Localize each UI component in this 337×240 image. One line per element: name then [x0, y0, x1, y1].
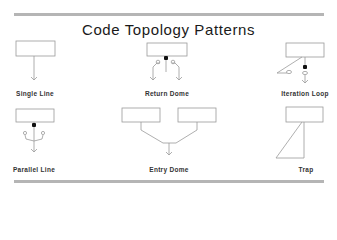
- parallel-branch-right: [34, 135, 43, 141]
- label-entry-dome: Entry Dome: [129, 166, 209, 173]
- return-dome-node: [164, 56, 168, 60]
- parallel-line-box: [16, 109, 54, 122]
- trap-box: [286, 107, 323, 122]
- label-iteration-loop: Iteration Loop: [265, 90, 337, 97]
- loop-node: [303, 71, 308, 74]
- return-dome-left-branch: [153, 63, 160, 80]
- label-parallel-line: Parallel Line: [0, 166, 74, 173]
- entry-dome-diagram: [122, 108, 216, 155]
- trap-diagram: [276, 107, 323, 158]
- parallel-node-left: [23, 131, 26, 134]
- iteration-loop-diagram: [277, 43, 324, 83]
- return-dome-right-branch: [172, 63, 179, 80]
- entry-dome-box-right: [178, 108, 216, 122]
- entry-dome-right-edge: [169, 122, 197, 143]
- trap-diagonal: [276, 122, 302, 158]
- parallel-branch-left: [25, 135, 34, 141]
- bottom-rule: [14, 180, 324, 183]
- return-dome-diagram: [147, 43, 187, 80]
- single-line-box: [16, 41, 55, 56]
- parallel-line-node: [32, 123, 36, 127]
- parallel-node-right: [41, 131, 44, 134]
- entry-dome-box-left: [122, 108, 160, 122]
- iteration-loop-node: [303, 65, 307, 69]
- single-line-diagram: [16, 41, 55, 80]
- parallel-line-diagram: [16, 109, 54, 152]
- label-single-line: Single Line: [0, 90, 75, 97]
- return-dome-box: [147, 43, 187, 56]
- loop-return-node: [287, 70, 292, 73]
- entry-dome-left-edge: [141, 122, 169, 143]
- label-trap: Trap: [266, 166, 337, 173]
- iteration-loop-box: [286, 43, 324, 57]
- label-return-dome: Return Dome: [127, 90, 207, 97]
